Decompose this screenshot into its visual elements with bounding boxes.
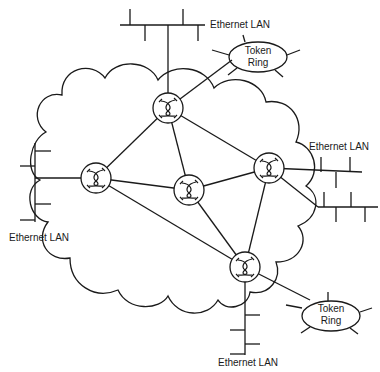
top-token-ring: Token Ring bbox=[168, 35, 300, 108]
left-ethernet-label: Ethernet LAN bbox=[9, 232, 69, 243]
network-diagram: Ethernet LAN Token Ring Ethernet LAN Et bbox=[0, 0, 380, 372]
router-icon bbox=[153, 93, 183, 123]
router-icon bbox=[230, 252, 260, 282]
top-ethernet-label: Ethernet LAN bbox=[210, 19, 270, 30]
bottom-token-ring: Token Ring bbox=[245, 267, 372, 334]
right-ethernet-label: Ethernet LAN bbox=[309, 141, 369, 152]
top-token-ring-label-1: Token bbox=[245, 45, 272, 56]
router-icon bbox=[174, 175, 204, 205]
bottom-token-ring-label-2: Ring bbox=[321, 315, 342, 326]
left-ethernet-lan: Ethernet LAN bbox=[9, 143, 96, 243]
top-token-ring-label-2: Ring bbox=[248, 57, 269, 68]
bottom-ethernet-label: Ethernet LAN bbox=[218, 357, 278, 368]
router-icon bbox=[254, 153, 284, 183]
right-ethernet-lan: Ethernet LAN bbox=[269, 141, 378, 222]
bottom-token-ring-label-1: Token bbox=[318, 303, 345, 314]
router-icon bbox=[81, 163, 111, 193]
